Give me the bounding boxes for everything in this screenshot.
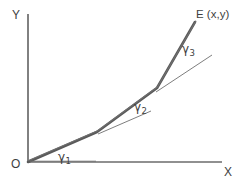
gamma-2-subscript: 2 [141, 106, 146, 116]
endpoint-label: E (x,y) [196, 9, 229, 21]
gamma-3-label: γ3 [182, 43, 195, 57]
diagram-svg [0, 0, 244, 184]
gamma-1-label: γ1 [58, 151, 71, 165]
origin-label: O [11, 158, 20, 170]
path-polyline-inner [29, 21, 196, 160]
x-axis-label: X [224, 166, 232, 178]
path-polyline-outer [28, 22, 195, 162]
y-axis-label: Y [12, 9, 20, 21]
figure-canvas: Y X O E (x,y) γ1 γ2 γ3 [0, 0, 244, 184]
gamma-1-subscript: 1 [65, 156, 70, 166]
gamma-2-label: γ2 [134, 101, 147, 115]
gamma-3-subscript: 3 [189, 48, 194, 58]
